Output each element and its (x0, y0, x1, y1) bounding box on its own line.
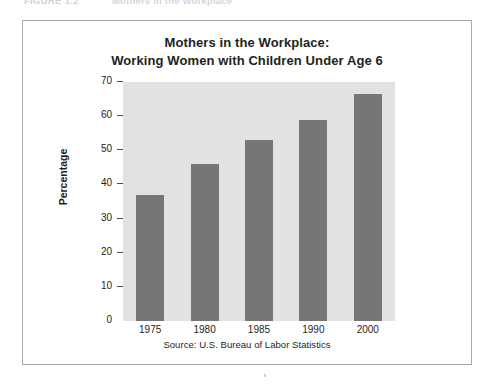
bar (354, 94, 382, 321)
scan-artifact-speck (264, 374, 266, 377)
x-tick-label: 2000 (341, 324, 395, 335)
chart-title-line-1: Mothers in the Workplace: (165, 35, 330, 50)
figure-number-label: FIGURE 1.2 (24, 0, 79, 6)
y-tick-label: 20 (101, 246, 112, 257)
page-running-head: FIGURE 1.2 Mothers in the Workplace (0, 0, 494, 12)
bar (245, 140, 273, 321)
bar-series (123, 82, 395, 321)
x-tick-label: 1990 (286, 324, 340, 335)
y-tick-label: 10 (101, 280, 112, 291)
figure-caption-label: Mothers in the Workplace (112, 0, 232, 6)
bar (191, 164, 219, 321)
y-tick-label: 40 (101, 177, 112, 188)
bar-slot (232, 82, 286, 321)
y-axis-title: Percentage (57, 117, 69, 237)
chart-title-line-2: Working Women with Children Under Age 6 (23, 52, 471, 70)
x-axis-ticks: 19751980198519902000 (123, 324, 395, 340)
x-tick-label: 1975 (123, 324, 177, 335)
plot-area: 706050403020100 (123, 82, 395, 321)
y-tick-label: 0 (106, 314, 112, 325)
bar (136, 195, 164, 321)
bar (299, 120, 327, 321)
source-note: Source: U.S. Bureau of Labor Statistics (23, 339, 471, 350)
x-tick-label: 1980 (177, 324, 231, 335)
bar-slot (341, 82, 395, 321)
bar-slot (177, 82, 231, 321)
y-tick-label: 50 (101, 143, 112, 154)
bar-slot (286, 82, 340, 321)
bar-slot (123, 82, 177, 321)
figure-frame: Mothers in the Workplace: Working Women … (22, 20, 472, 365)
y-tick-label: 70 (101, 75, 112, 86)
chart-title: Mothers in the Workplace: Working Women … (23, 34, 471, 70)
y-tick-label: 30 (101, 212, 112, 223)
x-tick-label: 1985 (232, 324, 286, 335)
y-tick-label: 60 (101, 109, 112, 120)
